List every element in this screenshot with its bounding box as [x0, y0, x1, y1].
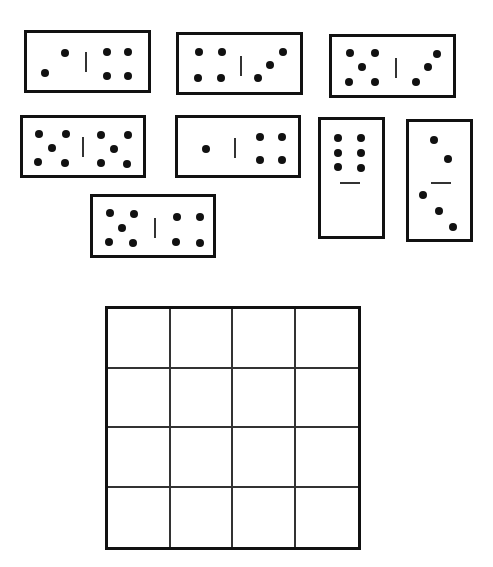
- pip: [279, 48, 287, 56]
- pip: [196, 239, 204, 247]
- grid-cell[interactable]: [171, 309, 234, 369]
- grid-cell[interactable]: [108, 309, 171, 369]
- pip: [435, 207, 443, 215]
- pip: [371, 49, 379, 57]
- pip: [346, 49, 354, 57]
- pip: [124, 131, 132, 139]
- domino-divider: [395, 58, 397, 78]
- pip: [110, 145, 118, 153]
- domino-6-0[interactable]: [318, 117, 385, 239]
- pip: [123, 160, 131, 168]
- pip: [217, 74, 225, 82]
- grid-cell[interactable]: [171, 488, 234, 548]
- pip: [35, 130, 43, 138]
- domino-divider: [340, 182, 360, 184]
- pip: [172, 238, 180, 246]
- pip: [105, 238, 113, 246]
- pip: [195, 48, 203, 56]
- domino-divider: [154, 218, 156, 238]
- pip: [103, 48, 111, 56]
- pip: [345, 78, 353, 86]
- pip: [34, 158, 42, 166]
- pip: [61, 159, 69, 167]
- pip: [194, 74, 202, 82]
- pip: [334, 149, 342, 157]
- pip: [202, 145, 210, 153]
- grid-cell[interactable]: [296, 369, 359, 429]
- pip: [334, 134, 342, 142]
- pip: [48, 144, 56, 152]
- domino-5-4[interactable]: [90, 194, 216, 258]
- domino-divider: [82, 137, 84, 157]
- pip: [254, 74, 262, 82]
- pip: [106, 209, 114, 217]
- domino-1-4[interactable]: [175, 115, 301, 178]
- pip: [371, 78, 379, 86]
- pip: [62, 130, 70, 138]
- pip: [256, 133, 264, 141]
- pip: [118, 224, 126, 232]
- domino-divider: [85, 52, 87, 72]
- pip: [61, 49, 69, 57]
- pip: [433, 50, 441, 58]
- pip: [124, 72, 132, 80]
- grid-cell[interactable]: [171, 428, 234, 488]
- grid-cell[interactable]: [233, 428, 296, 488]
- grid-cell[interactable]: [171, 369, 234, 429]
- pip: [129, 239, 137, 247]
- domino-5-5[interactable]: [20, 115, 146, 178]
- grid-cell[interactable]: [296, 309, 359, 369]
- pip: [419, 191, 427, 199]
- pip: [97, 131, 105, 139]
- domino-divider: [234, 138, 236, 158]
- pip: [218, 48, 226, 56]
- pip: [103, 72, 111, 80]
- pip: [256, 156, 264, 164]
- pip: [334, 163, 342, 171]
- grid-cell[interactable]: [233, 488, 296, 548]
- grid-cell[interactable]: [296, 488, 359, 548]
- grid-cell[interactable]: [108, 369, 171, 429]
- pip: [424, 63, 432, 71]
- pip: [449, 223, 457, 231]
- pip: [266, 61, 274, 69]
- pip: [124, 48, 132, 56]
- domino-2-4[interactable]: [24, 30, 151, 93]
- domino-2-3[interactable]: [406, 119, 473, 242]
- pip: [430, 136, 438, 144]
- grid-cell[interactable]: [296, 428, 359, 488]
- pip: [130, 210, 138, 218]
- pip: [444, 155, 452, 163]
- placement-grid: [105, 306, 361, 550]
- pip: [357, 134, 365, 142]
- grid-cell[interactable]: [108, 488, 171, 548]
- pip: [97, 159, 105, 167]
- pip: [196, 213, 204, 221]
- pip: [278, 156, 286, 164]
- pip: [357, 149, 365, 157]
- pip: [357, 164, 365, 172]
- pip: [358, 63, 366, 71]
- pip: [412, 78, 420, 86]
- domino-4-3[interactable]: [176, 32, 303, 95]
- grid-cell[interactable]: [233, 309, 296, 369]
- grid-cell[interactable]: [233, 369, 296, 429]
- pip: [41, 69, 49, 77]
- domino-divider: [431, 182, 451, 184]
- pip: [278, 133, 286, 141]
- domino-5-3[interactable]: [329, 34, 456, 98]
- domino-divider: [240, 56, 242, 76]
- grid-cell[interactable]: [108, 428, 171, 488]
- pip: [173, 213, 181, 221]
